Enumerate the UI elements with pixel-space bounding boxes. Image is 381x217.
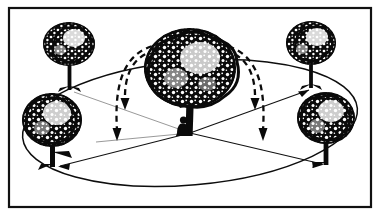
figure-container: Seed dispersal from a central tree Line …: [0, 0, 381, 217]
tree-lower-left-crown: [22, 93, 82, 147]
tree-lower-right-crown: [297, 92, 355, 144]
seed-dispersal-illustration: Seed dispersal from a central tree Line …: [0, 0, 381, 217]
